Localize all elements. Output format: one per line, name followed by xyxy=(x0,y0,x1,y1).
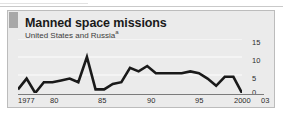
top-divider-rule xyxy=(0,6,283,7)
footnote-marker: a xyxy=(115,29,118,35)
x-axis-label-1977: 1977 xyxy=(18,97,35,105)
x-axis-label-90: 90 xyxy=(147,97,155,105)
x-axis-label-80: 80 xyxy=(50,97,58,105)
chart-title: Manned space missions xyxy=(25,17,167,30)
y-axis-label-15: 15 xyxy=(252,39,260,47)
y-axis-label-0: 0 xyxy=(252,89,256,97)
accent-block xyxy=(9,12,18,28)
x-axis-label-85: 85 xyxy=(98,97,106,105)
y-axis-label-10: 10 xyxy=(252,57,260,65)
x-axis-label-2000: 2000 xyxy=(234,97,251,105)
plot-area xyxy=(18,39,242,93)
chart-panel: Manned space missions United States and … xyxy=(7,10,275,108)
x-axis-label-95: 95 xyxy=(195,97,203,105)
x-axis-line xyxy=(18,94,264,95)
top-divider-rule-secondary xyxy=(0,3,88,4)
x-axis-label-03: 03 xyxy=(261,97,269,105)
line-chart-svg xyxy=(18,39,242,93)
figure-container: Manned space missions United States and … xyxy=(0,0,283,118)
y-axis-label-5: 5 xyxy=(252,75,256,83)
